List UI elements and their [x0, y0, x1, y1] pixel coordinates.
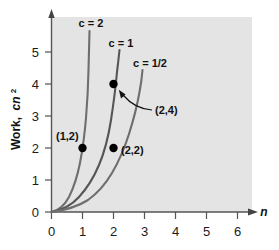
x-tick-label-4: 4 — [172, 224, 179, 239]
point-2-4 — [109, 80, 117, 88]
y-tick-label-2: 2 — [32, 141, 39, 156]
y-tick-label-3: 3 — [32, 109, 39, 124]
x-axis-title: n — [260, 205, 267, 219]
x-axis-ticks — [52, 212, 238, 219]
point-1-2 — [78, 144, 86, 152]
y-tick-label-5: 5 — [32, 45, 39, 60]
x-tick-label-5: 5 — [203, 224, 210, 239]
y-axis-title-main: Work, — [9, 117, 23, 150]
point-label-2-4: (2,4) — [155, 104, 178, 116]
curve-label-c-2: c = 2 — [79, 17, 104, 29]
x-tick-label-0: 0 — [48, 224, 55, 239]
y-axis-title: Work, cn 2 — [9, 88, 23, 150]
x-tick-label-6: 6 — [234, 224, 241, 239]
y-axis-ticks — [45, 52, 52, 212]
chart-svg: 0 1 2 3 4 5 0 1 2 3 4 5 6 n Work, cn 2 — [0, 0, 279, 250]
curve-label-c-half-group: c = 1/2 — [133, 57, 167, 69]
x-tick-label-2: 2 — [110, 224, 117, 239]
point-label-2-2: (2,2) — [121, 144, 144, 156]
y-tick-label-4: 4 — [32, 77, 39, 92]
point-label-1-2: (1,2) — [56, 130, 79, 142]
point-2-2 — [109, 144, 117, 152]
curve-label-c-2-group: c = 2 — [79, 17, 104, 29]
y-tick-label-0: 0 — [32, 205, 39, 220]
x-tick-label-3: 3 — [141, 224, 148, 239]
work-vs-n-chart: 0 1 2 3 4 5 0 1 2 3 4 5 6 n Work, cn 2 — [0, 0, 279, 250]
y-axis-title-exp: 2 — [9, 88, 18, 93]
curve-label-c-1: c = 1 — [109, 37, 134, 49]
curve-label-c-half: c = 1/2 — [133, 57, 167, 69]
y-axis-title-var: cn — [9, 97, 23, 111]
curve-label-c-1-group: c = 1 — [109, 37, 134, 49]
plot-panel-background — [52, 17, 252, 212]
x-tick-label-1: 1 — [79, 224, 86, 239]
y-tick-label-1: 1 — [32, 173, 39, 188]
svg-text:Work, cn 2: Work, cn 2 — [9, 88, 23, 150]
